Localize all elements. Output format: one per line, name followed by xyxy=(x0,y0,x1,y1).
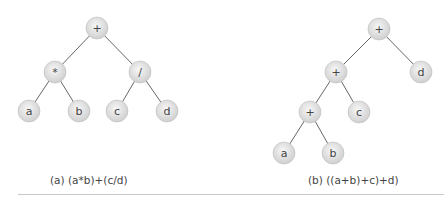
caption-tree-b: (b) ((a+b)+c)+d) xyxy=(308,174,399,186)
tree-node-p2: + xyxy=(325,61,347,83)
svg-text:c: c xyxy=(356,106,362,119)
svg-text:+: + xyxy=(305,106,314,119)
svg-text:+: + xyxy=(331,66,340,79)
tree-node-b: b xyxy=(322,142,344,164)
svg-text:b: b xyxy=(76,105,83,118)
caption-tree-a: (a) (a*b)+(c/d) xyxy=(50,174,127,186)
svg-text:+: + xyxy=(92,22,101,35)
tree-node-a: a xyxy=(273,142,295,164)
tree-node-p3: + xyxy=(299,101,321,123)
svg-text:b: b xyxy=(330,147,337,160)
svg-text:a: a xyxy=(26,105,33,118)
tree-node-mul: * xyxy=(44,61,66,83)
tree-node-d: d xyxy=(410,61,432,83)
tree-node-root: + xyxy=(368,18,390,40)
tree-node-root: + xyxy=(86,17,108,39)
svg-text:a: a xyxy=(281,147,288,160)
tree-node-c: c xyxy=(348,101,370,123)
divider xyxy=(18,194,444,195)
tree-node-d: d xyxy=(156,100,178,122)
tree-node-c: c xyxy=(106,100,128,122)
svg-text:+: + xyxy=(374,23,383,36)
svg-text:*: * xyxy=(52,66,58,79)
tree-node-a: a xyxy=(18,100,40,122)
tree-node-b: b xyxy=(68,100,90,122)
svg-text:d: d xyxy=(164,105,171,118)
svg-text:/: / xyxy=(138,66,142,79)
svg-text:d: d xyxy=(418,66,425,79)
svg-text:c: c xyxy=(114,105,120,118)
tree-node-div: / xyxy=(129,61,151,83)
